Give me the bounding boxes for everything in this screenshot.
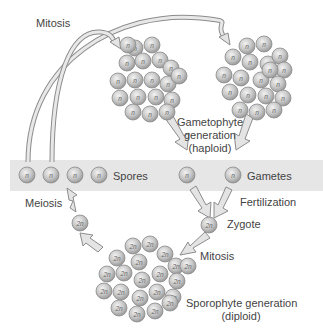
- cell: n: [171, 68, 187, 84]
- svg-text:n: n: [73, 172, 77, 179]
- svg-text:2n: 2n: [204, 222, 213, 229]
- svg-text:n: n: [126, 42, 130, 49]
- label-gametes: Gametes: [247, 170, 292, 182]
- svg-text:n: n: [231, 172, 235, 179]
- svg-text:n: n: [248, 59, 252, 66]
- svg-text:n: n: [238, 107, 242, 114]
- cell: 2n: [116, 265, 132, 281]
- label-gametophyte-line1: Gametophyte: [175, 116, 245, 128]
- cell: 2n: [99, 266, 115, 282]
- svg-text:n: n: [169, 65, 173, 72]
- svg-text:n: n: [125, 60, 129, 67]
- svg-text:2n: 2n: [75, 220, 84, 227]
- label-sporophyte-line1: Sporophyte generation: [186, 297, 296, 309]
- svg-text:n: n: [259, 77, 263, 84]
- label-fertilization: Fertilization: [240, 196, 296, 208]
- svg-text:n: n: [170, 97, 174, 104]
- svg-text:2n: 2n: [135, 295, 144, 302]
- svg-text:n: n: [166, 81, 170, 88]
- gametophyte-cluster-right: nnnnnnnnnnnnnnnnnnn: [216, 36, 292, 120]
- cell: n: [119, 55, 135, 71]
- cell: 2n: [72, 215, 88, 231]
- cell: n: [225, 49, 241, 65]
- arrow-meiosis-to-spores: [67, 188, 77, 212]
- svg-text:n: n: [282, 67, 286, 74]
- svg-text:2n: 2n: [160, 251, 169, 258]
- svg-text:n: n: [154, 94, 158, 101]
- svg-text:2n: 2n: [119, 270, 128, 277]
- cell: 2n: [132, 290, 148, 306]
- svg-text:n: n: [133, 77, 137, 84]
- label-meiosis: Meiosis: [25, 197, 62, 209]
- cell: 2n: [201, 217, 217, 233]
- cell: 2n: [111, 300, 127, 316]
- svg-text:n: n: [97, 172, 101, 179]
- cell: n: [120, 37, 136, 53]
- svg-text:n: n: [255, 109, 259, 116]
- cell: 2n: [169, 273, 185, 289]
- label-spores: Spores: [113, 170, 148, 182]
- svg-text:n: n: [158, 57, 162, 64]
- cell: 2n: [109, 250, 125, 266]
- svg-text:2n: 2n: [152, 289, 161, 296]
- cell: 2n: [125, 238, 141, 254]
- svg-text:2n: 2n: [99, 288, 108, 295]
- svg-text:2n: 2n: [145, 241, 154, 248]
- cell: n: [240, 87, 256, 103]
- svg-text:2n: 2n: [116, 289, 125, 296]
- svg-text:n: n: [268, 67, 272, 74]
- cell: n: [239, 38, 255, 54]
- cell: n: [144, 37, 160, 53]
- cell: n: [127, 72, 143, 88]
- cell: n: [144, 72, 160, 88]
- svg-text:2n: 2n: [112, 255, 121, 262]
- label-gametophyte-line2: generation: [175, 129, 245, 141]
- label-sporophyte-line2: (diploid): [186, 310, 296, 322]
- svg-text:n: n: [177, 73, 181, 80]
- cell: n: [67, 167, 83, 183]
- svg-text:n: n: [231, 54, 235, 61]
- cell: n: [130, 89, 146, 105]
- svg-text:n: n: [141, 58, 145, 65]
- cell: n: [159, 104, 175, 120]
- cell: 2n: [149, 284, 165, 300]
- svg-text:n: n: [281, 95, 285, 102]
- svg-text:n: n: [246, 92, 250, 99]
- svg-text:2n: 2n: [102, 271, 111, 278]
- cell: n: [135, 53, 151, 69]
- cell: n: [270, 76, 286, 92]
- cell: n: [225, 167, 241, 183]
- cell: n: [179, 167, 195, 183]
- cell: n: [266, 102, 282, 118]
- svg-text:n: n: [148, 111, 152, 118]
- cell: n: [233, 70, 249, 86]
- cell: n: [43, 167, 59, 183]
- svg-text:2n: 2n: [134, 259, 143, 266]
- cell: n: [110, 73, 126, 89]
- cell: 2n: [142, 236, 158, 252]
- gametophyte-cluster-left: nnnnnnnnnnnnnnnnnnn: [110, 37, 187, 122]
- cell: n: [216, 67, 232, 83]
- svg-text:n: n: [262, 41, 266, 48]
- cell: n: [258, 88, 274, 104]
- svg-text:n: n: [278, 53, 282, 60]
- svg-text:n: n: [228, 89, 232, 96]
- cell: 2n: [147, 303, 163, 319]
- svg-text:2n: 2n: [171, 263, 180, 270]
- label-mitosis-top: Mitosis: [36, 17, 70, 29]
- cell: n: [125, 104, 141, 120]
- cell: n: [256, 36, 272, 52]
- svg-text:2n: 2n: [183, 263, 192, 270]
- diagram-graphics: nnnnnnnnnnnnnnnnnnn nnnnnnnnnnnnnnnnnnn …: [0, 0, 323, 330]
- cell: n: [249, 104, 265, 120]
- label-gametophyte-line3: (haploid): [175, 142, 245, 154]
- svg-text:n: n: [222, 72, 226, 79]
- cell: n: [112, 90, 128, 106]
- cell: n: [91, 167, 107, 183]
- svg-text:2n: 2n: [172, 278, 181, 285]
- svg-text:n: n: [272, 107, 276, 114]
- svg-text:n: n: [150, 77, 154, 84]
- svg-text:n: n: [245, 43, 249, 50]
- svg-text:n: n: [49, 172, 53, 179]
- svg-text:2n: 2n: [128, 243, 137, 250]
